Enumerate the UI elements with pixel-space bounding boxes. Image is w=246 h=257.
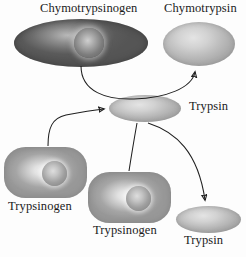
arrow-trypsinogen-middle-to-trypsin-center — [129, 123, 137, 171]
arrow-trypsin-center-to-trypsin-bottom — [148, 123, 205, 200]
arrow-trypsinogen-left-to-trypsin-center — [48, 109, 104, 146]
arrow-chymotrypsinogen-to-chymotrypsin — [81, 66, 195, 99]
diagram-canvas: Chymotrypsinogen Chymotrypsin Trypsin Tr… — [0, 0, 246, 257]
arrow-layer — [0, 0, 246, 257]
